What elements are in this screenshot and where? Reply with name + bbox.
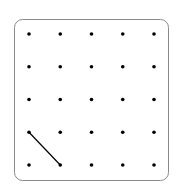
peg-dot-r1-c1[interactable]	[58, 65, 62, 69]
peg-dot-r2-c2[interactable]	[90, 98, 94, 102]
peg-dot-r3-c3[interactable]	[121, 130, 125, 134]
peg-dot-r3-c2[interactable]	[90, 130, 94, 134]
peg-dot-r3-c4[interactable]	[152, 130, 156, 134]
peg-dot-r0-c0[interactable]	[27, 32, 31, 36]
peg-dot-r3-c0[interactable]	[27, 130, 31, 134]
peg-dot-r1-c3[interactable]	[121, 65, 125, 69]
peg-dot-r4-c4[interactable]	[152, 163, 156, 167]
peg-dot-r4-c2[interactable]	[90, 163, 94, 167]
peg-dot-r0-c4[interactable]	[152, 32, 156, 36]
peg-dot-r1-c0[interactable]	[27, 65, 31, 69]
peg-dot-r0-c1[interactable]	[58, 32, 62, 36]
peg-dot-r1-c4[interactable]	[152, 65, 156, 69]
peg-dot-r4-c1[interactable]	[58, 163, 62, 167]
peg-dot-r0-c2[interactable]	[90, 32, 94, 36]
peg-dot-r2-c4[interactable]	[152, 98, 156, 102]
peg-dot-r0-c3[interactable]	[121, 32, 125, 36]
peg-dot-r2-c0[interactable]	[27, 98, 31, 102]
peg-dot-r1-c2[interactable]	[90, 65, 94, 69]
geoboard	[0, 0, 180, 190]
peg-dot-r4-c3[interactable]	[121, 163, 125, 167]
peg-dot-r2-c1[interactable]	[58, 98, 62, 102]
peg-dot-r3-c1[interactable]	[58, 130, 62, 134]
peg-dot-r2-c3[interactable]	[121, 98, 125, 102]
peg-dot-r4-c0[interactable]	[27, 163, 31, 167]
